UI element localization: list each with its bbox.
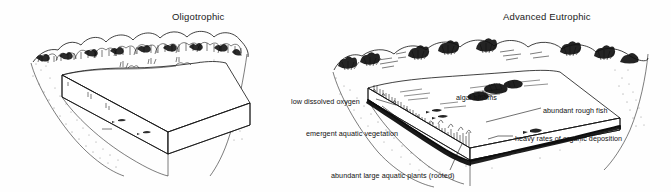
lake-diagram-artwork bbox=[0, 0, 671, 192]
trophic-state-comparison-figure: Oligotrophic Advanced Eutrophic low diss… bbox=[0, 0, 671, 192]
callout-heavy-rates-of-organic-deposition: heavy rates of organic deposition bbox=[515, 134, 622, 143]
callout-low-dissolved-oxygen: low dissolved oxygen bbox=[291, 97, 360, 106]
panel-title-advanced-eutrophic: Advanced Eutrophic bbox=[503, 11, 591, 22]
callout-emergent-aquatic-vegetation: emergent aquatic vegetation bbox=[306, 129, 398, 138]
callout-abundant-rough-fish: abundant rough fish bbox=[543, 106, 608, 115]
panel-title-oligotrophic: Oligotrophic bbox=[172, 11, 225, 22]
callout-algal-blooms: algal blooms bbox=[456, 93, 497, 102]
callout-abundant-large-aquatic-plants: abundant large aquatic plants (rooted) bbox=[331, 171, 454, 180]
right-sparse-vegetation bbox=[334, 38, 648, 70]
oligotrophic-illustration bbox=[31, 31, 250, 176]
